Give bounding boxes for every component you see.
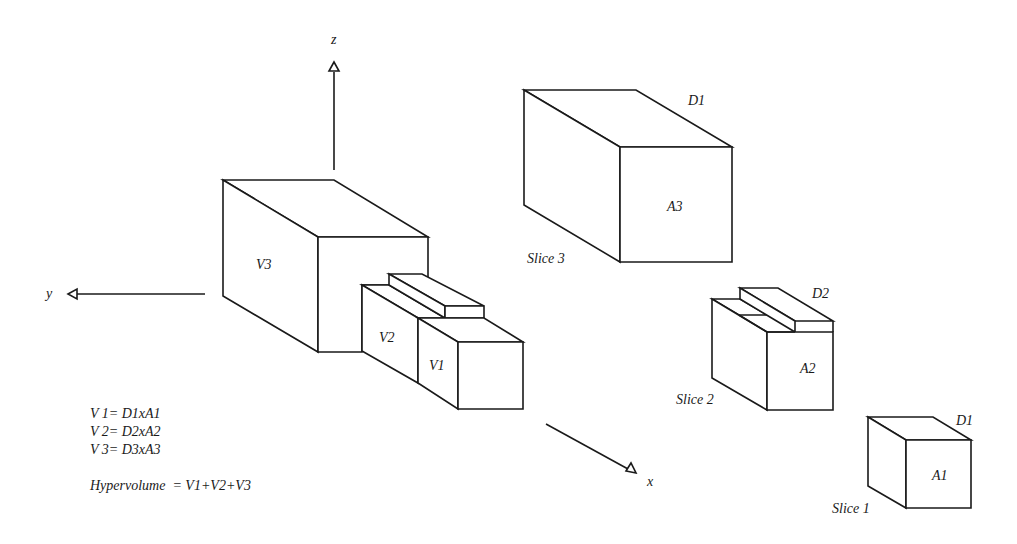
slice-1-area-label: A1 [932,469,948,483]
z-axis [329,62,339,170]
y-axis [68,289,205,299]
hypervolume-formula: Hypervolume = V1+V2+V3 [90,477,251,495]
formula-v1: V 1= D1xA1 [90,405,251,423]
x-axis [546,424,636,473]
slice-1-box [868,417,971,508]
volume-v3-label: V3 [256,258,272,272]
y-axis-label: y [46,287,52,301]
slice-2-name: Slice 2 [676,393,714,407]
slice-1-name: Slice 1 [832,502,870,516]
formula-block: V 1= D1xA1 V 2= D2xA2 V 3= D3xA3 Hypervo… [90,405,251,495]
slice-1-depth-label: D1 [956,414,973,428]
z-axis-label: z [331,33,336,47]
slice-2-box [712,288,833,410]
formula-v3: V 3= D3xA3 [90,441,251,459]
formula-v2: V 2= D2xA2 [90,423,251,441]
slice-3-area-label: A3 [667,200,683,214]
slice-3-box [524,90,732,262]
slice-3-depth-label: D1 [688,94,705,108]
slice-3-name: Slice 3 [527,252,565,266]
x-axis-label: x [647,475,653,489]
volume-v2-label: V2 [379,331,395,345]
volume-v1-label: V1 [429,359,445,373]
slice-2-area-label: A2 [800,362,816,376]
slice-2-depth-label: D2 [812,287,829,301]
